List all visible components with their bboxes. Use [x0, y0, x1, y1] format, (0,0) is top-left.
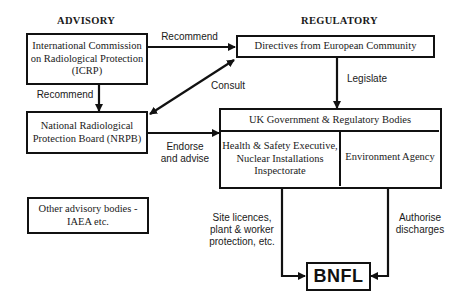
bnfl-node: BNFL — [306, 262, 371, 291]
consult-label: Consult — [198, 80, 258, 92]
other-advisory-label: Other advisory bodies - IAEA etc. — [39, 203, 138, 228]
hse-label: Health & Safety Executive, Nuclear Insta… — [222, 140, 337, 178]
nrpb-node: National Radiological Protection Board (… — [26, 111, 148, 154]
bnfl-label: BNFL — [314, 266, 364, 287]
environment-agency-label: Environment Agency — [345, 151, 435, 164]
recommend-label-left: Recommend — [33, 89, 97, 101]
arrow-site-licences — [282, 188, 305, 276]
directives-node: Directives from European Community — [236, 35, 435, 58]
directives-label: Directives from European Community — [255, 40, 417, 53]
uk-government-label: UK Government & Regulatory Bodies — [249, 114, 411, 127]
icrp-node: International Commission on Radiological… — [26, 33, 148, 85]
icrp-label: International Commission on Radiological… — [31, 40, 144, 78]
uk-government-header: UK Government & Regulatory Bodies — [221, 110, 439, 132]
endorse-label: Endorse and advise — [152, 141, 218, 165]
arrow-authorise — [371, 188, 388, 276]
legislate-label: Legislate — [342, 73, 392, 85]
site-licences-label: Site licences, plant & worker protection… — [204, 212, 280, 248]
other-advisory-node: Other advisory bodies - IAEA etc. — [27, 197, 149, 234]
uk-government-node: UK Government & Regulatory Bodies Health… — [219, 108, 442, 189]
advisory-heading: ADVISORY — [57, 15, 115, 26]
authorise-label: Authorise discharges — [390, 212, 450, 236]
environment-agency-cell: Environment Agency — [341, 132, 439, 182]
regulatory-diagram: ADVISORY REGULATORY International Commis… — [0, 0, 466, 303]
hse-cell: Health & Safety Executive, Nuclear Insta… — [221, 132, 341, 186]
nrpb-label: National Radiological Protection Board (… — [33, 120, 142, 145]
regulatory-heading: REGULATORY — [301, 15, 378, 26]
recommend-label-top: Recommend — [152, 31, 227, 43]
